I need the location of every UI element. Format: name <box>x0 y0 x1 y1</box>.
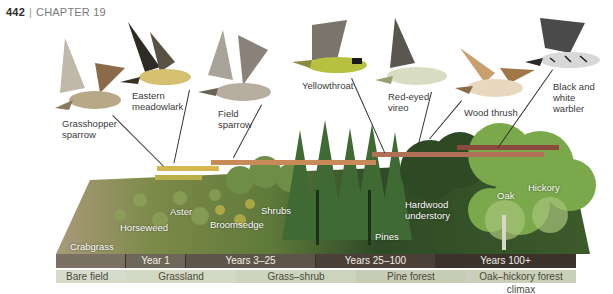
header-separator: | <box>29 6 32 18</box>
bird-label-eastern-meadowlark: Eastern meadowlark <box>132 90 183 112</box>
range-bar-red-eyed-vireo <box>372 152 544 157</box>
bird-label-grasshopper-sparrow: Grasshopper sparrow <box>62 118 117 140</box>
timeline-segment-years-25-100: Years 25–100 <box>316 254 436 268</box>
plant-label-hickory: Hickory <box>528 182 560 193</box>
yellowthroat-illustration <box>292 20 372 80</box>
stage-pine-forest: Pine forest <box>356 270 466 283</box>
field-sparrow-illustration <box>198 30 278 105</box>
chapter-label: CHAPTER 19 <box>36 6 106 18</box>
page-header: 442|CHAPTER 19 <box>6 6 106 18</box>
plant-label-crabgrass: Crabgrass <box>70 241 114 252</box>
timeline-years-row: Year 1 Years 3–25 Years 25–100 Years 100… <box>56 254 576 268</box>
plant-label-aster: Aster <box>170 206 192 217</box>
bird-label-black-and-white-warbler: Black and white warbler <box>553 81 595 114</box>
bird-label-wood-thrush: Wood thrush <box>464 107 518 118</box>
red-eyed-vireo-illustration <box>375 18 455 93</box>
plant-label-broomsedge: Broomsedge <box>210 219 264 230</box>
plant-label-shrubs: Shrubs <box>261 205 291 216</box>
plant-label-hardwood-understory: Hardwood understory <box>405 199 450 221</box>
stage-bare-field: Bare field <box>56 270 126 283</box>
grasshopper-sparrow-illustration <box>55 38 130 118</box>
bird-label-red-eyed-vireo: Red-eyed vireo <box>388 91 429 113</box>
range-bar-grasshopper-sparrow <box>155 175 202 180</box>
page-number: 442 <box>6 6 25 18</box>
range-bar-wood-thrush <box>457 145 559 150</box>
timeline-segment-years-3-25: Years 3–25 <box>186 254 316 268</box>
eastern-meadowlark-illustration <box>120 22 200 92</box>
succession-landscape-illustration <box>50 120 610 255</box>
bird-label-yellowthroat: Yellowthroat <box>302 80 353 91</box>
timeline-segment-year-1: Year 1 <box>126 254 186 268</box>
timeline-segment-years-100-plus: Years 100+ <box>436 254 576 268</box>
stage-grassland: Grassland <box>126 270 236 283</box>
timeline-segment-bare <box>56 254 126 268</box>
plant-label-pines: Pines <box>375 231 399 242</box>
range-bar-eastern-meadowlark <box>157 166 219 171</box>
plant-label-oak: Oak <box>497 190 514 201</box>
stage-grass-shrub: Grass–shrub <box>236 270 356 283</box>
bird-label-field-sparrow: Field sparrow <box>218 108 252 130</box>
stage-oak-hickory-climax: Oak–hickory forest climax <box>466 270 576 283</box>
succession-stage-row: Bare field Grassland Grass–shrub Pine fo… <box>56 270 576 283</box>
black-and-white-warbler-illustration <box>525 18 610 73</box>
plant-label-horseweed: Horseweed <box>120 222 168 233</box>
range-bar-yellowthroat <box>300 160 376 165</box>
